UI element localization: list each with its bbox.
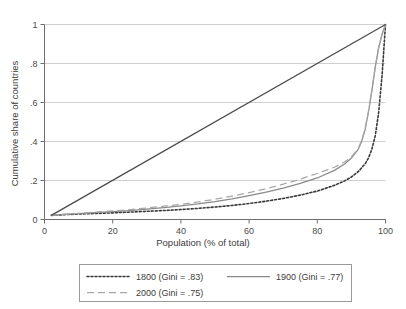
series-line-3 (51, 25, 385, 216)
x-tick-label: 100 (371, 226, 401, 236)
x-tick-label: 80 (302, 226, 332, 236)
lorenz-curve-chart: 0.2.4.6.81 020406080100 Population (% of… (0, 0, 406, 309)
legend-label: 2000 (Gini = .75) (136, 288, 203, 298)
x-axis-title: Population (% of total) (0, 237, 406, 248)
x-tick-label: 20 (98, 226, 128, 236)
legend-item[interactable]: 1900 (Gini = .77) (226, 269, 343, 284)
legend-label: 1900 (Gini = .77) (276, 272, 343, 282)
chart-legend: 1800 (Gini = .83)1900 (Gini = .77)2000 (… (79, 264, 352, 302)
x-tick-label: 0 (30, 226, 60, 236)
x-tick-label: 40 (166, 226, 196, 236)
x-tick-label: 60 (234, 226, 264, 236)
plot-area (0, 0, 406, 309)
legend-line-sample-icon (226, 271, 271, 282)
legend-line-sample-icon (86, 287, 131, 298)
legend-item[interactable]: 2000 (Gini = .75) (86, 285, 203, 300)
legend-label: 1800 (Gini = .83) (136, 272, 203, 282)
legend-item[interactable]: 1800 (Gini = .83) (86, 269, 203, 284)
legend-line-sample-icon (86, 271, 131, 282)
y-axis-title: Cumulative share of countries (9, 24, 20, 224)
